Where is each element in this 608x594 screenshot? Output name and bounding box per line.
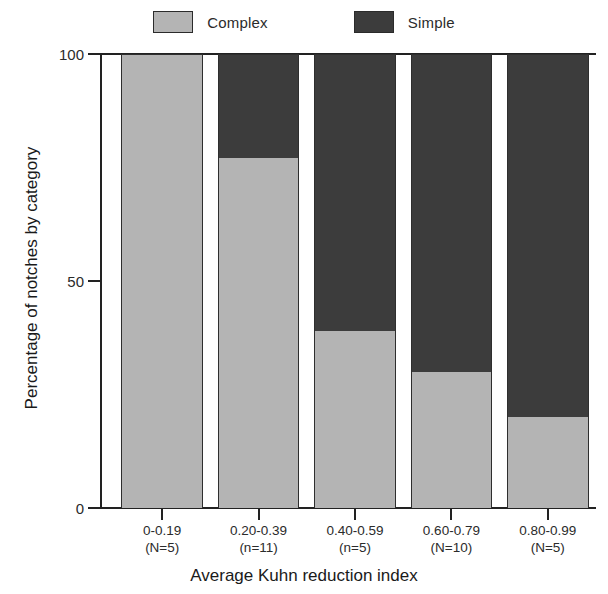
- y-tick-label-50: 50: [18, 273, 84, 290]
- y-tick-0: [88, 507, 102, 509]
- x-tick-label-range: 0-0.19: [143, 523, 181, 538]
- legend-entry-simple: Simple: [354, 11, 455, 33]
- y-tick-label-0: 0: [18, 500, 84, 517]
- bar-segment-simple: [411, 54, 492, 372]
- x-tick-label-range: 0.20-0.39: [230, 523, 287, 538]
- bar-segment-simple: [218, 54, 299, 158]
- legend-label-complex: Complex: [207, 14, 268, 31]
- x-tick-label: 0.40-0.59(n=5): [307, 522, 403, 556]
- x-tick-label-range: 0.80-0.99: [519, 523, 576, 538]
- bar-segment-complex: [218, 158, 299, 508]
- x-tick-label-range: 0.60-0.79: [423, 523, 480, 538]
- x-tick-0: [161, 509, 163, 520]
- bar-group: [121, 54, 202, 508]
- y-tick-100: [88, 53, 102, 55]
- y-tick-label-100: 100: [18, 46, 84, 63]
- x-axis-tick-labels: 0-0.19(N=5)0.20-0.39(n=11)0.40-0.59(n=5)…: [102, 522, 596, 572]
- y-tick-50: [88, 280, 102, 282]
- x-tick-4: [547, 509, 549, 520]
- bar-group: [411, 54, 492, 508]
- legend-label-simple: Simple: [408, 14, 455, 31]
- legend-swatch-complex: [153, 11, 193, 33]
- x-tick-label: 0-0.19(N=5): [114, 522, 210, 556]
- x-tick-label: 0.60-0.79(N=10): [403, 522, 499, 556]
- x-tick-label-range: 0.40-0.59: [326, 523, 383, 538]
- bar-segment-simple: [314, 54, 395, 331]
- chart-legend: Complex Simple: [0, 4, 608, 40]
- x-tick-label-count: (n=5): [307, 539, 403, 556]
- bar-group: [507, 54, 588, 508]
- stacked-bar-chart: Complex Simple Percentage of notches by …: [0, 0, 608, 594]
- legend-entry-complex: Complex: [153, 11, 268, 33]
- x-tick-label: 0.20-0.39(n=11): [210, 522, 306, 556]
- x-tick-label-count: (n=11): [210, 539, 306, 556]
- x-tick-label-count: (N=10): [403, 539, 499, 556]
- bar-segment-complex: [121, 54, 202, 508]
- bar-segment-simple: [507, 54, 588, 417]
- x-tick-3: [450, 509, 452, 520]
- bar-segment-complex: [507, 417, 588, 508]
- x-axis-title: Average Kuhn reduction index: [0, 566, 608, 586]
- legend-swatch-simple: [354, 11, 394, 33]
- bar-group: [314, 54, 395, 508]
- plot-area: [102, 54, 596, 508]
- bar-group: [218, 54, 299, 508]
- bar-segment-complex: [314, 331, 395, 508]
- x-tick-1: [258, 509, 260, 520]
- x-tick-label: 0.80-0.99(N=5): [500, 522, 596, 556]
- x-tick-label-count: (N=5): [114, 539, 210, 556]
- x-tick-2: [354, 509, 356, 520]
- x-tick-label-count: (N=5): [500, 539, 596, 556]
- bar-segment-complex: [411, 372, 492, 508]
